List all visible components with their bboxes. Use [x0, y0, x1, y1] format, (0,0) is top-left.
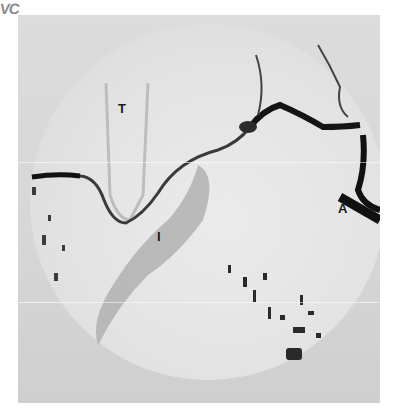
vessel-tracing	[18, 15, 380, 403]
left-mottling	[32, 187, 65, 281]
injection-shadow	[96, 165, 209, 345]
angiogram-plate	[18, 15, 380, 403]
scan-artifact	[18, 302, 380, 303]
upper-right-vessel	[250, 105, 360, 127]
label-a: A	[338, 201, 347, 216]
corner-label: VC	[0, 0, 20, 17]
scan-artifact	[18, 162, 380, 163]
tube-outline	[106, 83, 148, 220]
label-t: T	[118, 101, 126, 116]
label-i: I	[157, 229, 161, 244]
mottled-vessels	[228, 265, 321, 360]
